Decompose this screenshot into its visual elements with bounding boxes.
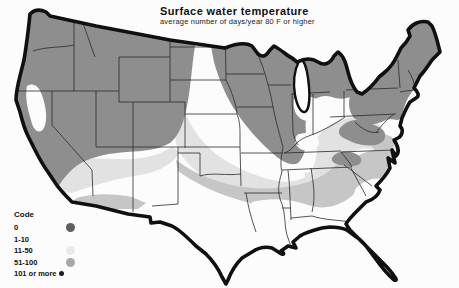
legend-dot [66, 223, 75, 232]
map-subtitle: average number of days/year 80 F or high… [160, 17, 315, 26]
legend-label: 101 or more [14, 269, 57, 278]
legend-row: 51-100 [14, 257, 124, 269]
region-white-texas [142, 200, 259, 287]
lake-michigan [294, 61, 309, 112]
legend-dot [66, 235, 75, 244]
legend-label: 51-100 [14, 258, 37, 267]
map-title: Surface water temperature [160, 5, 315, 17]
legend-label: 1-10 [14, 235, 29, 244]
figure-canvas: Surface water temperature average number… [0, 0, 459, 288]
legend-row: 101 or more [14, 268, 124, 280]
legend-row: 0 [14, 222, 124, 234]
legend: Code 0 1-10 11-50 51-100 101 or more [14, 210, 124, 280]
legend-row: 1-10 [14, 234, 124, 246]
title-block: Surface water temperature average number… [160, 5, 315, 26]
legend-dot [59, 271, 64, 276]
legend-row: 11-50 [14, 245, 124, 257]
legend-label: 11-50 [14, 246, 33, 255]
legend-dot [66, 258, 75, 267]
legend-dot [66, 246, 75, 255]
legend-heading: Code [14, 210, 124, 219]
legend-label: 0 [14, 223, 18, 232]
